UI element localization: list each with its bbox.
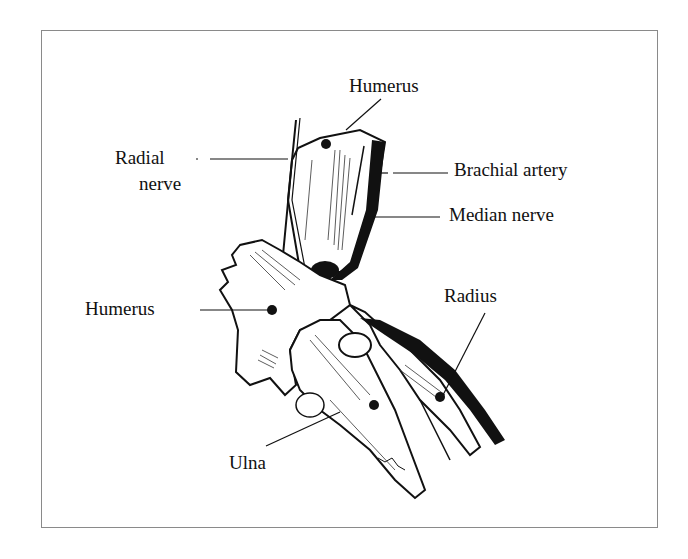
label-radial-nerve-line2: nerve — [139, 174, 181, 195]
label-radial-nerve-line1: Radial — [115, 148, 165, 169]
label-humerus-left: Humerus — [85, 299, 155, 320]
label-radius: Radius — [444, 286, 497, 307]
humerus-shaft — [283, 118, 385, 280]
label-brachial-artery: Brachial artery — [454, 160, 567, 181]
elbow-illustration — [0, 0, 688, 559]
label-humerus-top: Humerus — [349, 76, 419, 97]
label-ulna: Ulna — [229, 453, 266, 474]
label-median-nerve: Median nerve — [449, 205, 554, 226]
